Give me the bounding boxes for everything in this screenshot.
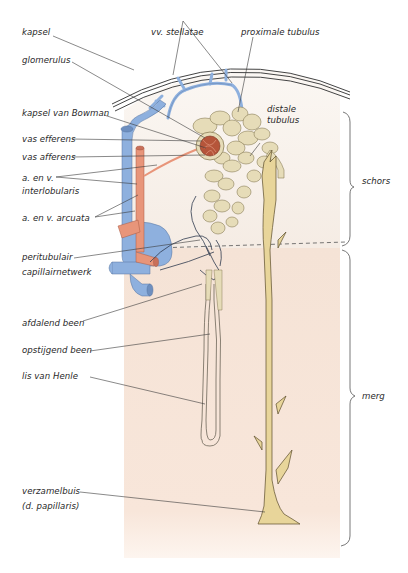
merg-brace [341, 250, 355, 546]
label-tubulus: tubulus [267, 115, 299, 126]
label-afdalend-been: afdalend been [22, 318, 84, 329]
label-schors: schors [362, 176, 390, 187]
label-kapsel-van-bowman: kapsel van Bowman [22, 108, 109, 119]
label-interlobularis: interlobularis [22, 186, 79, 197]
glomerulus [200, 136, 220, 156]
label-vv-stellatae: vv. stellatae [151, 27, 204, 38]
label-opstijgend-been: opstijgend been [22, 345, 92, 356]
medulla-region [124, 248, 340, 558]
label-distale: distale [267, 104, 296, 115]
label-arcuata: a. en v. arcuata [22, 213, 90, 224]
label-merg: merg [362, 391, 385, 402]
label-kapsel: kapsel [22, 27, 50, 38]
label-glomerulus: glomerulus [22, 55, 71, 66]
label-a-en-v: a. en v. [22, 173, 54, 184]
label-capillairnetwerk: capillairnetwerk [22, 267, 92, 278]
label-proximale-tubulus: proximale tubulus [241, 27, 320, 38]
label-d-papillaris: (d. papillaris) [22, 501, 79, 512]
schors-brace [342, 112, 354, 246]
label-lis-van-henle: lis van Henle [22, 371, 78, 382]
nephron-diagram: kapsel glomerulus kapsel van Bowman vas … [0, 0, 408, 573]
label-verzamelbuis: verzamelbuis [22, 486, 80, 497]
label-vas-afferens: vas afferens [22, 152, 76, 163]
label-vas-efferens: vas efferens [22, 134, 76, 145]
label-peritubulair: peritubulair [22, 252, 73, 263]
